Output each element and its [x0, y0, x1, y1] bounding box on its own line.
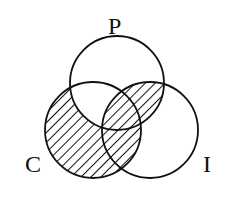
label-i: I [203, 151, 211, 177]
label-c: C [25, 151, 41, 177]
venn-diagram: P C I [0, 0, 230, 200]
label-p: P [108, 13, 121, 39]
